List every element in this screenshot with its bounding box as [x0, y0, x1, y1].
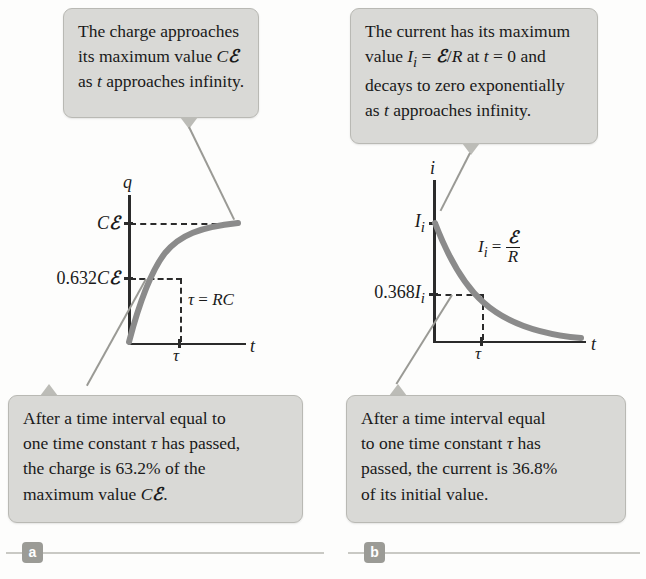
- callout-line: value Ii = ℰ/R at t = 0 and: [365, 44, 583, 72]
- panel-a-top-callout: The charge approaches its maximum value …: [63, 8, 259, 118]
- panel-b-top-callout: The current has its maximum value Ii = ℰ…: [350, 8, 598, 144]
- callout-line: the charge is 63.2% of the: [23, 456, 288, 481]
- rc-circuit-figure: The charge approaches its maximum value …: [0, 0, 646, 579]
- callout-line: passed, the current is 36.8%: [361, 456, 611, 481]
- panel-a-graph: q t Cℰ 0.632Cℰ τ τ = RC: [0, 150, 323, 370]
- panel-a-footer-rule: [6, 552, 324, 554]
- callout-line: one time constant τ has passed,: [23, 431, 288, 456]
- panel-b-current-equation: Ii = ℰR: [478, 230, 520, 267]
- panel-b-letter-badge: b: [364, 542, 385, 563]
- callout-line: to one time constant τ has: [361, 431, 611, 456]
- callout-line: After a time interval equal: [361, 406, 611, 431]
- panel-b-bottom-callout: After a time interval equal to one time …: [346, 395, 626, 523]
- panel-a-tau-equation: τ = RC: [188, 290, 234, 310]
- callout-line: After a time interval equal to: [23, 406, 288, 431]
- callout-line: decays to zero exponentially: [365, 73, 583, 98]
- callout-line: maximum value Cℰ.: [23, 482, 288, 507]
- panel-b-footer-rule: [348, 552, 640, 554]
- panel-a-curve: [0, 150, 323, 370]
- callout-line: The charge approaches: [78, 19, 244, 44]
- callout-line: as t approaches infinity.: [78, 69, 244, 94]
- callout-line: of its initial value.: [361, 482, 611, 507]
- panel-a-letter-badge: a: [22, 542, 43, 563]
- callout-line: The current has its maximum: [365, 19, 583, 44]
- panel-b-graph: i t Ii 0.368Ii τ Ii = ℰR: [323, 150, 646, 370]
- panel-a-bottom-callout: After a time interval equal to one time …: [8, 395, 303, 523]
- callout-line: as t approaches infinity.: [365, 98, 583, 123]
- callout-line: its maximum value Cℰ: [78, 44, 244, 69]
